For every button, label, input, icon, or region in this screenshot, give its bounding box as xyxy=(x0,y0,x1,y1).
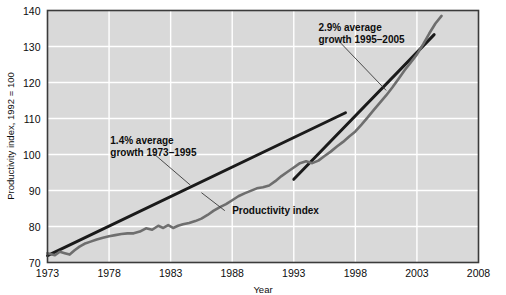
x-tick-label: 1998 xyxy=(344,267,368,279)
productivity-index-chart: 708090100110120130140 197319781983198819… xyxy=(0,0,506,295)
x-tick-label: 1978 xyxy=(97,267,121,279)
y-tick-label: 80 xyxy=(29,221,41,233)
y-tick-label: 130 xyxy=(23,41,41,53)
y-tick-label: 100 xyxy=(23,149,41,161)
x-tick-label: 1973 xyxy=(36,267,60,279)
y-tick-label: 110 xyxy=(24,113,41,125)
x-tick-label: 2008 xyxy=(467,267,491,279)
x-axis-title: Year xyxy=(253,284,272,295)
x-tick-label: 2003 xyxy=(405,267,429,279)
y-tick-label: 90 xyxy=(29,185,41,197)
y-tick-label: 120 xyxy=(23,77,41,89)
x-tick-label: 1983 xyxy=(159,267,183,279)
y-tick-label: 140 xyxy=(23,5,41,17)
series-callout-label: Productivity index xyxy=(232,205,319,216)
x-tick-label: 1988 xyxy=(221,267,245,279)
x-tick-label: 1993 xyxy=(282,267,306,279)
chart-container: 708090100110120130140 197319781983198819… xyxy=(0,0,506,295)
y-axis-title: Productivity index, 1992 = 100 xyxy=(5,72,16,200)
